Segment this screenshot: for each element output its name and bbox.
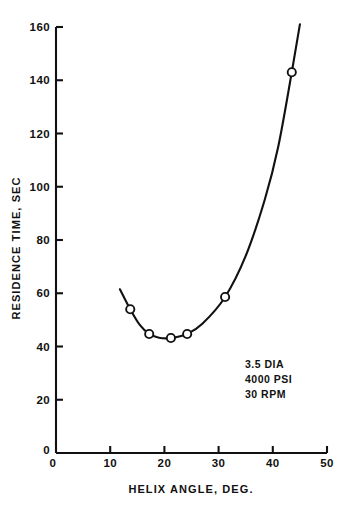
y-axis-title: RESIDENCE TIME, SEC <box>10 176 22 319</box>
x-tick-label: 40 <box>266 457 280 469</box>
y-tick-label: 80 <box>36 234 50 246</box>
data-point-marker <box>221 293 229 301</box>
data-point-marker <box>167 334 175 342</box>
x-tick-label: 50 <box>320 457 334 469</box>
y-tick-label: 140 <box>30 74 50 86</box>
y-tick-label: 100 <box>30 181 50 193</box>
residence-time-vs-helix-angle-chart: 020406080100120140160 01020304050 HELIX … <box>0 0 345 514</box>
y-tick-label: 40 <box>36 341 50 353</box>
chart-figure: 020406080100120140160 01020304050 HELIX … <box>0 0 345 514</box>
x-axis-title: HELIX ANGLE, DEG. <box>128 483 253 495</box>
x-tick-label: 10 <box>103 457 117 469</box>
data-point-marker <box>126 305 134 313</box>
chart-background <box>0 0 345 514</box>
annotation-diameter: 3.5 DIA <box>245 358 284 370</box>
data-point-marker <box>145 330 153 338</box>
annotation-rpm: 30 RPM <box>245 388 286 400</box>
y-tick-label: 20 <box>36 394 50 406</box>
y-tick-label: 120 <box>30 128 50 140</box>
y-tick-label: 160 <box>30 21 50 33</box>
data-point-marker <box>288 68 296 76</box>
x-tick-label: 30 <box>212 457 226 469</box>
y-tick-label: 0 <box>43 444 50 456</box>
x-tick-label: 20 <box>158 457 172 469</box>
y-tick-label: 60 <box>36 287 50 299</box>
x-tick-label: 0 <box>50 457 57 469</box>
annotation-pressure: 4000 PSI <box>245 373 292 385</box>
data-point-marker <box>183 330 191 338</box>
